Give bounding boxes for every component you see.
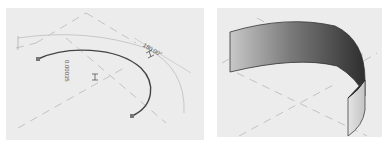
3d-viewport[interactable] (217, 8, 382, 137)
extruded-surface[interactable] (230, 22, 365, 96)
arc-start-point[interactable] (36, 57, 40, 61)
3d-canvas[interactable] (217, 8, 382, 137)
sketch-arc[interactable] (38, 50, 151, 116)
radius-dimension[interactable]: 0.00035 (64, 60, 70, 82)
sketch-canvas[interactable] (6, 8, 204, 140)
sketch-viewport[interactable]: 0.00035 180.00° (6, 8, 204, 140)
arc-end-point[interactable] (130, 114, 134, 118)
surface-inner-face[interactable] (348, 80, 365, 136)
constraint-icon (92, 74, 98, 80)
dimension-arc (18, 35, 184, 113)
